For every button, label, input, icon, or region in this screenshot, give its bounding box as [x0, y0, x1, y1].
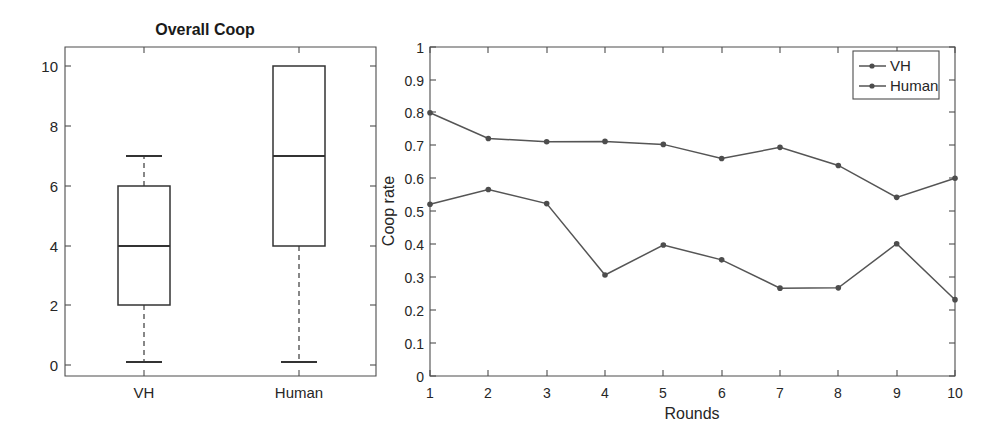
- lineplot-legend[interactable]: VH Human: [853, 51, 939, 99]
- data-point: [719, 156, 725, 162]
- data-point: [777, 285, 783, 291]
- boxplot-ytick-label-8: 8: [50, 118, 58, 135]
- lineplot-ytick-label-03: 0.3: [405, 270, 425, 286]
- box-vh: [118, 156, 170, 362]
- figure-container: Overall Coop: [0, 0, 995, 424]
- lineplot-xtick-label-6: 6: [718, 385, 726, 401]
- box-human: [273, 66, 325, 362]
- lineplot-xtick-label-8: 8: [834, 385, 842, 401]
- series-vh: [427, 187, 958, 303]
- series-line-vh: [430, 189, 955, 299]
- series-line-human: [430, 113, 955, 198]
- lineplot-ytick-label-06: 0.6: [405, 171, 425, 187]
- lineplot-series-layer: [427, 110, 958, 302]
- data-point: [952, 297, 958, 303]
- lineplot-ytick-label-05: 0.5: [405, 204, 425, 220]
- lineplot-ytick-label-04: 0.4: [405, 237, 425, 253]
- lineplot-xtick-label-4: 4: [601, 385, 609, 401]
- legend-label-human: Human: [890, 77, 938, 94]
- lineplot-xtick-label-2: 2: [484, 385, 492, 401]
- boxplot-ytick-label-10: 10: [41, 58, 58, 75]
- lineplot-xtick-label-1: 1: [426, 385, 434, 401]
- boxplot-title: Overall Coop: [155, 21, 255, 38]
- boxplot-ytick-label-0: 0: [50, 357, 58, 374]
- lineplot-ytick-label-09: 0.9: [405, 73, 425, 89]
- data-point: [777, 145, 783, 151]
- data-point: [427, 110, 433, 116]
- lineplot-svg: 1 0.9 0.8 0.7 0.6 0.5 0.4 0.3 0.2 0.1 0 …: [380, 0, 995, 424]
- data-point: [894, 241, 900, 247]
- lineplot-yaxis-title: Coop rate: [380, 176, 397, 246]
- boxplot-axes: [65, 47, 376, 376]
- lineplot-xtick-label-7: 7: [776, 385, 784, 401]
- lineplot-panel: 1 0.9 0.8 0.7 0.6 0.5 0.4 0.3 0.2 0.1 0 …: [380, 0, 995, 424]
- boxplot-category-label-vh: VH: [134, 384, 155, 401]
- lineplot-ytick-label-0: 0: [416, 369, 424, 385]
- boxplot-ytick-label-4: 4: [50, 238, 58, 255]
- data-point: [836, 285, 842, 291]
- data-point: [661, 242, 667, 248]
- legend-marker-human: [869, 83, 874, 88]
- lineplot-xtick-label-9: 9: [893, 385, 901, 401]
- lineplot-xaxis-title: Rounds: [664, 405, 719, 422]
- data-point: [952, 175, 958, 181]
- lineplot-ytick-label-07: 0.7: [405, 138, 425, 154]
- lineplot-ytick-label-08: 0.8: [405, 105, 425, 121]
- data-point: [719, 257, 725, 263]
- lineplot-xtick-label-3: 3: [543, 385, 551, 401]
- data-point: [486, 187, 492, 193]
- data-point: [486, 136, 492, 142]
- lineplot-ytick-label-1: 1: [416, 40, 424, 56]
- data-point: [427, 201, 433, 207]
- data-point: [602, 139, 608, 145]
- data-point: [544, 201, 550, 207]
- lineplot-xtick-label-10: 10: [947, 385, 963, 401]
- boxplot-panel: Overall Coop: [0, 0, 390, 424]
- data-point: [836, 163, 842, 169]
- lineplot-xtick-label-5: 5: [659, 385, 667, 401]
- boxplot-ytick-label-6: 6: [50, 178, 58, 195]
- data-point: [602, 272, 608, 278]
- legend-marker-vh: [869, 63, 874, 68]
- data-point: [661, 142, 667, 148]
- series-human: [427, 110, 958, 200]
- lineplot-ytick-label-01: 0.1: [405, 336, 425, 352]
- boxplot-svg: Overall Coop: [0, 0, 390, 424]
- lineplot-ytick-label-02: 0.2: [405, 303, 425, 319]
- data-point: [894, 195, 900, 201]
- data-point: [544, 139, 550, 145]
- legend-label-vh: VH: [890, 57, 911, 74]
- boxplot-ytick-label-2: 2: [50, 297, 58, 314]
- boxplot-category-label-human: Human: [275, 384, 323, 401]
